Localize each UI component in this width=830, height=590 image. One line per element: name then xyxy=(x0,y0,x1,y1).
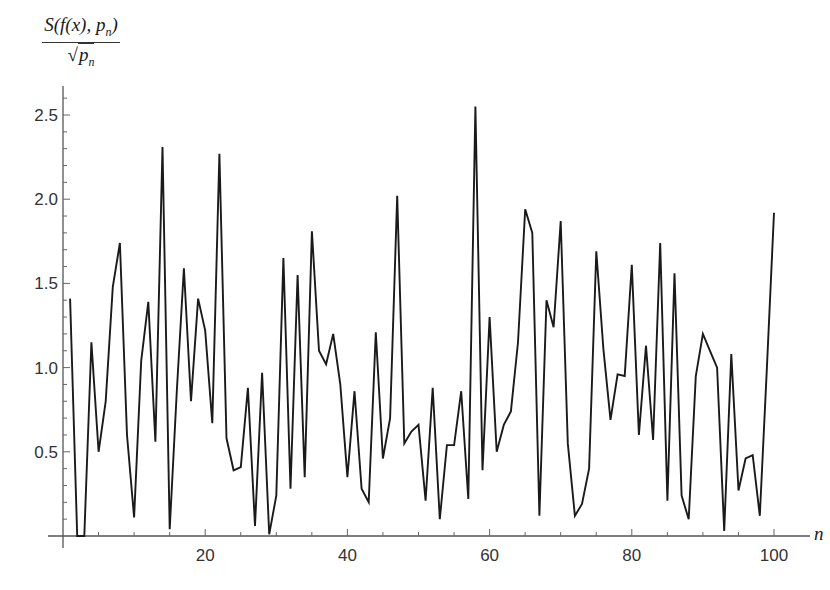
x-tick-label: 60 xyxy=(480,546,499,565)
x-tick-label: 100 xyxy=(760,546,788,565)
x-tick-label: 20 xyxy=(196,546,215,565)
y-tick-label: 2.5 xyxy=(34,106,58,125)
tick-labels: 0.51.01.52.02.520406080100 xyxy=(34,106,788,565)
y-tick-label: 1.5 xyxy=(34,274,58,293)
y-tick-label: 0.5 xyxy=(34,443,58,462)
x-tick-label: 40 xyxy=(338,546,357,565)
y-tick-label: 2.0 xyxy=(34,190,58,209)
x-tick-label: 80 xyxy=(622,546,641,565)
x-axis-label: n xyxy=(814,523,824,544)
data-line xyxy=(70,107,774,536)
y-tick-label: 1.0 xyxy=(34,359,58,378)
line-chart: 0.51.01.52.02.520406080100 n xyxy=(0,0,830,590)
